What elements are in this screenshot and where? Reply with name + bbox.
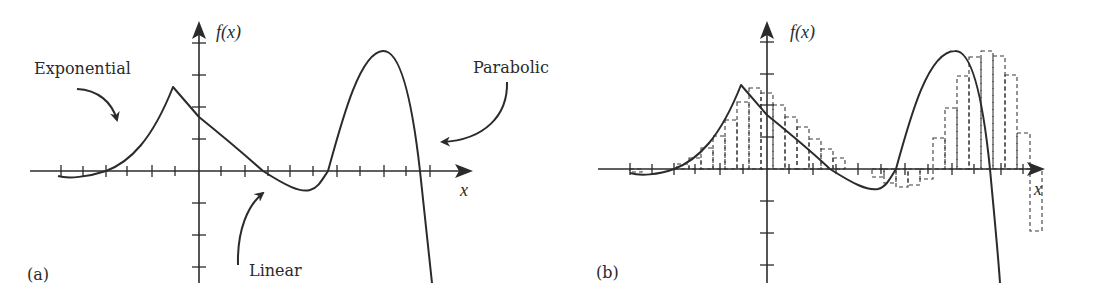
step-approximation-bars [630,51,1042,231]
exponential-arrow-icon [77,89,117,120]
panel-label-b: (b) [596,263,619,282]
panel-b: f(x) x (b) [596,21,1045,283]
y-axis-label-b: f(x) [790,22,815,43]
y-axis-b [760,21,774,283]
panel-label-a: (a) [27,265,49,284]
x-axis-label-b: x [1033,179,1042,199]
y-axis-label-a: f(x) [216,22,241,43]
x-axis-a [30,164,473,178]
panel-a: Exponential Linear Parabolic f(x) x (a) [27,21,549,284]
x-axis-label-a: x [459,180,468,200]
label-parabolic: Parabolic [473,58,549,77]
label-linear: Linear [249,261,302,280]
label-exponential: Exponential [34,59,131,78]
linear-arrow-icon [238,193,263,265]
y-axis-a [192,21,206,283]
parabolic-arrow-icon [442,82,507,142]
figure-canvas: Exponential Linear Parabolic f(x) x (a) [0,0,1101,303]
